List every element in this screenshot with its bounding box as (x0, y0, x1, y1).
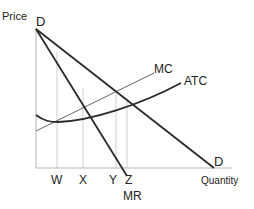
atc-curve (36, 83, 181, 122)
mark-w: W (51, 173, 63, 187)
mc-label: MC (154, 62, 173, 76)
demand-curve (36, 29, 214, 168)
x-axis-label: Quantity (201, 175, 238, 186)
demand-top-label: D (36, 14, 45, 29)
demand-bottom-label: D (214, 154, 223, 169)
mark-z: Z (125, 173, 132, 187)
y-axis-label: Price (2, 10, 27, 22)
mr-label: MR (123, 189, 142, 203)
mark-x: X (79, 173, 87, 187)
economics-diagram: Price D MC ATC D Quantity W X Y Z MR (0, 0, 254, 209)
mark-y: Y (109, 173, 117, 187)
mr-curve (36, 29, 127, 176)
atc-label: ATC (184, 74, 207, 88)
